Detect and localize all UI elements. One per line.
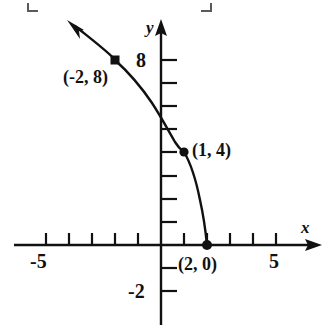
point-marker-2-0 xyxy=(202,240,212,250)
point-marker--2-8 xyxy=(111,56,120,65)
x-tick-label-5: 5 xyxy=(269,251,279,271)
y-tick-label--2: -2 xyxy=(128,281,145,301)
x-axis-label: x xyxy=(301,219,310,236)
point-label-2-0: (2, 0) xyxy=(178,255,217,273)
y-tick-label-8: 8 xyxy=(136,50,146,70)
point-label--2-8: (-2, 8) xyxy=(63,68,108,86)
y-axis-label: y xyxy=(146,19,154,36)
point-marker-1-4 xyxy=(179,147,188,156)
x-tick-label--5: -5 xyxy=(30,251,47,271)
curve-arrowhead xyxy=(67,20,84,39)
y-axis-ticks xyxy=(160,60,177,291)
point-label-1-4: (1, 4) xyxy=(192,141,231,159)
coordinate-plane-figure xyxy=(0,0,333,335)
